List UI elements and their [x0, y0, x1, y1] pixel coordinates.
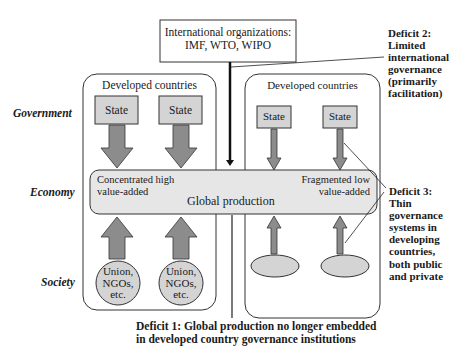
left-state-label-1: State	[95, 104, 138, 117]
left-society-label-2: Union, NGOs, etc.	[159, 266, 203, 301]
deficit2-line: facilitation)	[388, 87, 449, 99]
society-line3: etc.	[96, 289, 140, 301]
governance-deficits-diagram: Government Economy Society International…	[0, 0, 454, 348]
deficit3-line: systems in	[389, 221, 443, 233]
deficit3-line: developing	[389, 233, 443, 245]
deficit2-line: international	[388, 51, 449, 63]
deficit2-line: Limited	[388, 39, 449, 51]
society-line3: etc.	[159, 289, 203, 301]
deficit3-label: Deficit 3: Thin governance systems in de…	[389, 185, 443, 282]
economy-left-label: Concentrated high value-added	[97, 174, 174, 198]
international-org-line2: IMF, WTO, WIPO	[160, 39, 296, 52]
deficit3-line: Thin	[389, 197, 443, 209]
row-label-government: Government	[13, 107, 72, 120]
deficit2-line: (primarily	[388, 75, 449, 87]
right-society-ellipse-1	[251, 255, 299, 277]
deficit1-line1: Deficit 1: Global production no longer e…	[136, 320, 376, 333]
deficit1-line2: in developed country governance institut…	[136, 333, 376, 346]
right-state-label-1: State	[257, 110, 291, 123]
right-society-ellipse-2	[321, 255, 369, 277]
deficit1-label: Deficit 1: Global production no longer e…	[136, 320, 376, 345]
left-society-label-1: Union, NGOs, etc.	[96, 266, 140, 301]
deficit3-line: Deficit 3:	[389, 185, 443, 197]
economy-left-line1: Concentrated high	[97, 174, 174, 186]
international-org-line1: International organizations:	[160, 26, 296, 39]
deficit2-line: governance	[388, 63, 449, 75]
economy-left-line2: value-added	[97, 186, 174, 198]
row-label-society: Society	[41, 276, 75, 289]
economy-right-line1: Fragmented low	[290, 174, 370, 186]
society-line1: Union,	[159, 266, 203, 278]
international-org-label: International organizations: IMF, WTO, W…	[160, 26, 296, 52]
right-region-title: Developed countries	[245, 79, 380, 92]
deficit3-line: both public	[389, 258, 443, 270]
left-state-label-2: State	[159, 104, 202, 117]
deficit3-line: countries,	[389, 245, 443, 257]
right-state-label-2: State	[323, 110, 357, 123]
row-label-economy: Economy	[30, 186, 75, 199]
deficit2-line: Deficit 2:	[388, 27, 449, 39]
economy-center-label: Global production	[187, 195, 275, 209]
deficit3-line: and private	[389, 270, 443, 282]
deficit2-label: Deficit 2: Limited international governa…	[388, 27, 449, 100]
society-line1: Union,	[96, 266, 140, 278]
economy-right-label: Fragmented low value-added	[290, 174, 370, 198]
left-region-title: Developed countries	[83, 79, 216, 92]
economy-right-line2: value-added	[290, 186, 370, 198]
deficit3-line: governance	[389, 209, 443, 221]
